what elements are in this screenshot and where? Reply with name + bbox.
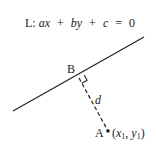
point-A-dot [106,129,110,133]
coord-close-paren: ) [141,126,145,140]
distance-label: d [95,93,102,107]
equation-term-c: c [103,16,109,30]
equation-plus-2: + [89,16,96,30]
right-angle-marker [82,75,87,83]
perpendicular-distance-line [79,78,108,131]
equation-plus-1: + [57,16,64,30]
equation-term-ax: ax [39,16,51,30]
equation-term-by: by [71,16,83,30]
equation-prefix: L: [25,16,39,30]
equation-zero: 0 [129,16,135,30]
line-equation: L: ax + by + c = 0 [25,16,135,30]
line-L [13,37,144,111]
point-A-coordinates: (x1, y1) [112,126,145,141]
point-A-label: A [95,126,104,140]
equation-equals: = [115,16,122,30]
point-B-label: B [67,62,75,76]
diagram-canvas: L: ax + by + c = 0 B d A (x1, y1) [0,0,156,145]
